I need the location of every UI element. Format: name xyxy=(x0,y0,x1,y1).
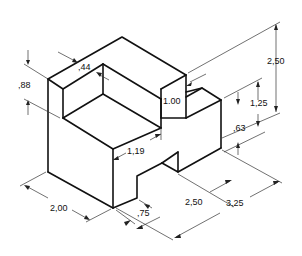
label-slot-length: 2,50 xyxy=(185,197,203,207)
label-notch-height: ,88 xyxy=(18,80,31,90)
label-slot-height: ,63 xyxy=(233,123,246,133)
label-wall-thickness: ,44 xyxy=(78,62,91,72)
label-depth: 2,00 xyxy=(50,203,68,213)
label-overall-height: 2,50 xyxy=(267,56,285,66)
label-overall-length: 3,25 xyxy=(226,198,244,208)
label-slot-offset: ,75 xyxy=(137,208,150,218)
dimension-labels: ,88 ,44 2,50 1.00 1,25 ,63 1,19 2,00 ,75… xyxy=(18,56,285,218)
object-outline xyxy=(48,37,221,208)
isometric-drawing: ,88 ,44 2,50 1.00 1,25 ,63 1,19 2,00 ,75… xyxy=(0,0,302,256)
label-step-height: 1,25 xyxy=(250,98,268,108)
label-notch-width: 1,19 xyxy=(127,146,145,156)
label-inner-depth: 1.00 xyxy=(163,96,181,106)
